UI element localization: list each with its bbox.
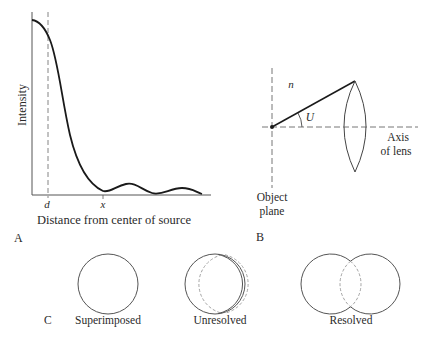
angle-u-arc (298, 113, 302, 127)
panel-c-resolution-circles: C Superimposed Unresolved Resolved (44, 254, 400, 327)
resolved-circle-left-outer (301, 254, 350, 314)
y-axis-label: Intensity (15, 84, 29, 126)
medium-index-label: n (288, 78, 294, 90)
unresolved-circle-left (185, 254, 245, 314)
panel-a-intensity-plot: Intensity d x Distance from center of so… (14, 12, 211, 245)
unresolved-circle-left-inner-dashed (199, 255, 222, 313)
panel-c-label: C (44, 314, 52, 326)
object-plane-label-line2: plane (260, 205, 285, 218)
resolved-circle-left-inner-dashed (351, 261, 362, 307)
lens-axis-label-line2: of lens (381, 145, 413, 157)
panel-b-label: B (256, 230, 264, 244)
lens-icon (344, 81, 366, 172)
tick-label-d: d (44, 198, 50, 210)
resolved-label: Resolved (330, 314, 373, 326)
angle-u-label: U (306, 111, 315, 123)
superimposed-case: Superimposed (75, 254, 141, 327)
intensity-curve (32, 20, 202, 194)
superimposed-circle (78, 254, 138, 314)
panel-a-label: A (14, 231, 23, 245)
superimposed-label: Superimposed (75, 314, 141, 327)
tick-label-x: x (100, 198, 106, 210)
unresolved-circle-right-outer (218, 255, 243, 314)
resolved-circle-right-inner-dashed (340, 261, 351, 307)
lens-axis-label-line1: Axis (387, 131, 409, 143)
figure-canvas: Intensity d x Distance from center of so… (0, 0, 430, 339)
resolved-circle-right-outer (351, 254, 400, 314)
object-plane-label-line1: Object (257, 191, 288, 204)
unresolved-case: Unresolved (185, 254, 248, 326)
unresolved-label: Unresolved (193, 314, 246, 326)
resolved-case: Resolved (301, 254, 400, 326)
x-axis-label: Distance from center of source (37, 213, 192, 227)
panel-b-lens-diagram: n U Axis of lens Object plane B (256, 68, 418, 244)
object-point (270, 125, 274, 129)
